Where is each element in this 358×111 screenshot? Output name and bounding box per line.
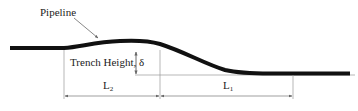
pipeline-label: Pipeline [40,7,76,18]
pipeline-curve [10,41,350,74]
l2-label: L2 [103,80,113,93]
l1-label-main: L [223,79,230,91]
l2-label-main: L [103,79,110,91]
pipeline-leader-arrow [74,18,98,38]
l1-label: L1 [223,80,233,93]
l1-label-subscript: 1 [230,85,234,93]
pipeline-trench-diagram: Pipeline Trench Height, δ L2 L1 [0,0,358,111]
l2-label-subscript: 2 [110,85,114,93]
trench-height-label: Trench Height, δ [70,57,144,68]
